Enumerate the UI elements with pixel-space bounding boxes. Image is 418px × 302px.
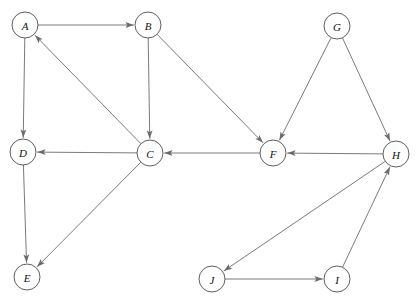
node-label-e: E: [23, 272, 31, 284]
graph-node-a[interactable]: A: [12, 12, 38, 38]
node-label-d: D: [18, 147, 27, 159]
graph-node-e[interactable]: E: [14, 264, 40, 290]
graph-edge-i-to-h: [343, 167, 390, 267]
graph-edge-c-to-d: [37, 152, 137, 153]
graph-edge-g-to-f: [279, 38, 331, 141]
graph-edge-h-to-j: [224, 161, 386, 271]
graph-node-g[interactable]: G: [324, 13, 350, 39]
node-label-h: H: [391, 149, 401, 161]
node-label-a: A: [21, 20, 29, 32]
node-label-b: B: [145, 20, 152, 32]
edges-layer: [23, 25, 390, 279]
graph-edge-a-to-d: [23, 38, 25, 138]
node-label-g: G: [333, 21, 341, 33]
graph-node-c[interactable]: C: [137, 140, 163, 166]
graph-edge-d-to-e: [23, 165, 26, 263]
graph-edge-c-to-e: [37, 162, 141, 267]
graph-canvas: ABCDEFGHIJ: [0, 0, 418, 302]
graph-edge-c-to-a: [35, 35, 141, 144]
graph-node-f[interactable]: F: [260, 140, 286, 166]
graph-node-b[interactable]: B: [135, 12, 161, 38]
graph-node-i[interactable]: I: [324, 266, 350, 292]
graph-edge-b-to-c: [148, 38, 150, 139]
graph-edge-h-to-f: [287, 153, 383, 154]
graph-edge-g-to-h: [342, 38, 390, 141]
graph-edge-b-to-f: [157, 34, 263, 143]
graph-diagram: ABCDEFGHIJ: [0, 0, 418, 302]
node-label-f: F: [269, 148, 277, 160]
node-label-c: C: [146, 148, 154, 160]
graph-node-d[interactable]: D: [10, 139, 36, 165]
graph-node-j[interactable]: J: [199, 266, 225, 292]
graph-node-h[interactable]: H: [383, 141, 409, 167]
